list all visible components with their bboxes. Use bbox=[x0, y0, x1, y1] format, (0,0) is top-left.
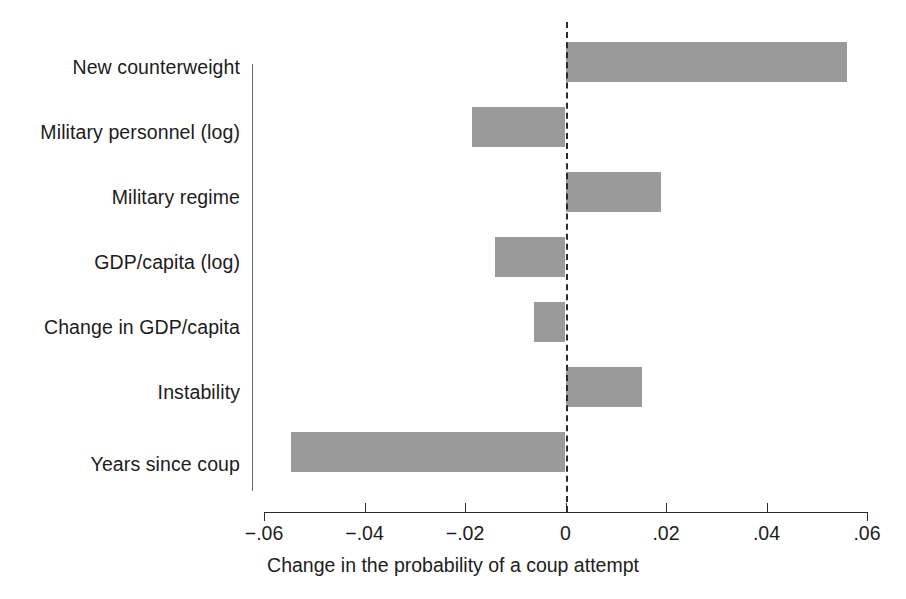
x-axis-title: Change in the probability of a coup atte… bbox=[0, 556, 906, 576]
plot-area: −.06 −.04 −.02 0 .02 .04 .06 bbox=[0, 0, 906, 599]
x-axis-tick-label: −.04 bbox=[345, 524, 384, 544]
x-axis-tick-mark bbox=[264, 512, 265, 521]
bar-chart-figure: New counterweight Military personnel (lo… bbox=[0, 0, 906, 599]
x-axis-tick-mark bbox=[365, 503, 366, 512]
zero-reference-line bbox=[566, 22, 568, 512]
x-axis-tick-label: 0 bbox=[560, 524, 571, 544]
x-axis-tick-mark bbox=[465, 503, 466, 512]
x-axis-tick-mark bbox=[666, 503, 667, 512]
x-axis-tick-mark bbox=[767, 503, 768, 512]
x-axis-tick-label: −.06 bbox=[245, 524, 284, 544]
bar-new-counterweight bbox=[566, 42, 848, 82]
x-axis-tick-label: −.02 bbox=[446, 524, 485, 544]
bar-years-since-coup bbox=[291, 432, 566, 472]
x-axis-tick-label: .06 bbox=[853, 524, 880, 544]
x-axis-tick-label: .04 bbox=[753, 524, 780, 544]
y-axis-spine bbox=[252, 64, 253, 491]
x-axis-spine bbox=[264, 512, 867, 513]
x-axis-tick-mark bbox=[566, 503, 567, 512]
bar-military-regime bbox=[566, 172, 662, 212]
x-axis-tick-label: .02 bbox=[652, 524, 679, 544]
bar-military-personnel bbox=[472, 107, 566, 147]
bar-instability bbox=[566, 367, 643, 407]
x-axis-tick-mark bbox=[867, 512, 868, 521]
bar-gdp-capita bbox=[495, 237, 565, 277]
bar-change-in-gdp-capita bbox=[534, 302, 566, 342]
